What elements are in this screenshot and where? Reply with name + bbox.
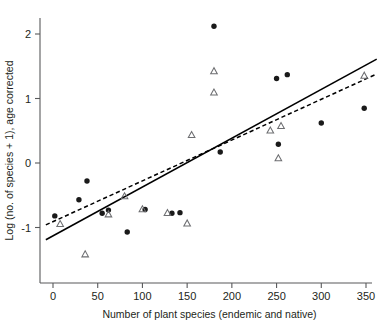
x-tick-label: 350 bbox=[357, 290, 375, 302]
data-point-triangle bbox=[278, 123, 285, 129]
data-point-triangle bbox=[211, 68, 218, 74]
x-tick-label: 250 bbox=[267, 290, 285, 302]
data-point-triangle bbox=[57, 221, 64, 227]
y-tick-label: -1 bbox=[21, 222, 31, 234]
data-point-circle bbox=[274, 76, 279, 81]
x-tick-label: 50 bbox=[92, 290, 104, 302]
y-tick-label: 0 bbox=[25, 157, 31, 169]
data-point-circle bbox=[177, 210, 182, 215]
data-point-triangle bbox=[184, 220, 191, 226]
data-point-triangle bbox=[211, 89, 218, 95]
plot-canvas: -1012050100150200250300350Number of plan… bbox=[0, 0, 379, 325]
x-tick-label: 150 bbox=[178, 290, 196, 302]
x-tick-label: 200 bbox=[223, 290, 241, 302]
x-tick-label: 300 bbox=[312, 290, 330, 302]
data-point-circle bbox=[99, 211, 104, 216]
data-point-circle bbox=[362, 105, 367, 110]
data-point-circle bbox=[285, 72, 290, 77]
data-point-circle bbox=[218, 149, 223, 154]
x-tick-label: 0 bbox=[50, 290, 56, 302]
axis-labels-group: -1012050100150200250300350Number of plan… bbox=[3, 28, 375, 320]
y-axis-title: Log (no. of species + 1), age corrected bbox=[3, 60, 15, 240]
data-point-triangle bbox=[275, 155, 282, 161]
data-point-circle bbox=[211, 24, 216, 29]
data-point-triangle bbox=[267, 127, 274, 133]
data-point-triangle bbox=[188, 132, 195, 138]
scatter-plot-figure: -1012050100150200250300350Number of plan… bbox=[0, 0, 379, 325]
data-point-triangle bbox=[82, 251, 89, 257]
regression-lines-group bbox=[46, 59, 377, 240]
data-point-triangle bbox=[105, 211, 112, 217]
data-markers-group bbox=[52, 24, 367, 257]
x-axis-title: Number of plant species (endemic and nat… bbox=[102, 308, 316, 320]
data-point-circle bbox=[84, 178, 89, 183]
data-point-triangle bbox=[361, 72, 368, 78]
data-point-circle bbox=[52, 213, 57, 218]
data-point-circle bbox=[276, 142, 281, 147]
y-tick-label: 2 bbox=[25, 28, 31, 40]
data-point-circle bbox=[319, 120, 324, 125]
x-tick-label: 100 bbox=[133, 290, 151, 302]
data-point-circle bbox=[76, 197, 81, 202]
y-tick-label: 1 bbox=[25, 93, 31, 105]
solid-regression-line bbox=[46, 59, 377, 240]
data-point-circle bbox=[125, 229, 130, 234]
